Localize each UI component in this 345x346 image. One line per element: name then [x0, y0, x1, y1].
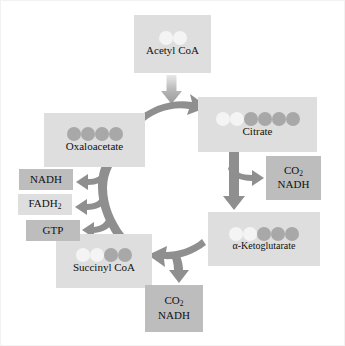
product-nadh-label: NADH: [278, 178, 310, 192]
node-fadh2: FADH2: [18, 194, 72, 215]
node-gtp: GTP: [26, 220, 80, 241]
node-oxaloacetate: Oxaloacetate: [44, 113, 145, 167]
product-co2-label: CO2: [284, 164, 303, 178]
node-acetyl-coa: Acetyl CoA: [134, 15, 211, 73]
product-gtp-label: GTP: [43, 224, 64, 238]
carbon-light: [90, 248, 104, 262]
carbon-light: [229, 227, 243, 241]
node-citrate: Citrate: [198, 97, 317, 152]
carbon-dark: [272, 112, 286, 126]
carbon-group-oxaloacetate: [67, 127, 123, 141]
carbon-dark: [109, 127, 123, 141]
node-nadh: NADH: [19, 169, 73, 190]
carbon-dark: [118, 248, 132, 262]
fadh2-subscript: 2: [58, 202, 62, 211]
arrow-citrate-to-alpha-kg: [223, 151, 245, 210]
carbon-dark: [95, 127, 109, 141]
product-fadh2-label: FADH2: [29, 197, 62, 211]
node-label-oxaloacetate: Oxaloacetate: [66, 141, 123, 153]
node-succinyl-coa: Succinyl CoA: [56, 234, 152, 288]
product-nadh-label: NADH: [30, 173, 62, 187]
node-label-alpha-ketoglutarate: α-Ketoglutarate: [233, 241, 296, 252]
product-nadh-label: NADH: [158, 309, 190, 323]
carbon-light: [173, 31, 187, 45]
co2-subscript: 2: [180, 300, 184, 309]
node-alpha-ketoglutarate: α-Ketoglutarate: [208, 212, 320, 266]
carbon-light: [243, 227, 257, 241]
node-label-succinyl-coa: Succinyl CoA: [73, 262, 135, 274]
carbon-group-alpha-ketoglutarate: [229, 227, 299, 241]
carbon-dark: [258, 112, 272, 126]
node-label-acetyl-coa: Acetyl CoA: [146, 45, 199, 57]
node-label-citrate: Citrate: [243, 126, 273, 138]
arrow-acetyl-coa-entry: [161, 75, 182, 104]
carbon-dark: [244, 112, 258, 126]
node-co2-nadh-bottom: CO2 NADH: [145, 285, 203, 332]
carbon-light: [76, 248, 90, 262]
carbon-dark: [81, 127, 95, 141]
carbon-group-acetyl-coa: [159, 31, 187, 45]
co2-subscript: 2: [299, 169, 303, 178]
carbon-dark: [285, 227, 299, 241]
carbon-dark: [104, 248, 118, 262]
carbon-light: [230, 112, 244, 126]
carbon-light: [159, 31, 173, 45]
carbon-light: [216, 112, 230, 126]
arrow-branch-fadh2: [75, 197, 106, 215]
carbon-dark: [271, 227, 285, 241]
carbon-dark: [67, 127, 81, 141]
carbon-dark: [257, 227, 271, 241]
carbon-dark: [286, 112, 300, 126]
carbon-group-succinyl-coa: [76, 248, 132, 262]
krebs-cycle-diagram: Acetyl CoA Citrate α-Ketoglutarate: [0, 0, 345, 346]
arrow-alpha-kg-branch-co2: [169, 252, 189, 283]
carbon-group-citrate: [216, 112, 300, 126]
product-co2-label: CO2: [164, 294, 183, 308]
node-co2-nadh-right: CO2 NADH: [266, 156, 321, 200]
